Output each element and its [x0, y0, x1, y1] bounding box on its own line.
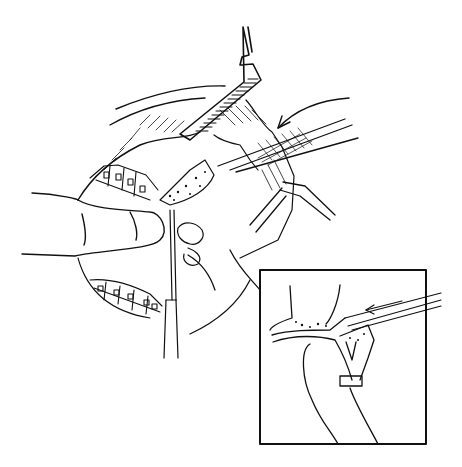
- bone-segment: [160, 160, 214, 205]
- orthodontic-brackets-upper: [90, 165, 158, 200]
- curved-arrow: [278, 98, 349, 128]
- tooth: [178, 223, 203, 265]
- vertical-probe: [164, 210, 178, 358]
- inset-finger: [303, 344, 378, 444]
- elevator-instrument: [218, 119, 358, 172]
- illustration-canvas: [0, 0, 462, 467]
- upper-lip: [78, 86, 225, 200]
- medical-illustration: Line illustration of intraoral surgical …: [0, 0, 462, 467]
- upper-retractor: [180, 27, 261, 140]
- operator-finger: [22, 193, 164, 256]
- inset-bone-section: [270, 285, 374, 380]
- orthodontic-brackets-lower: [78, 258, 162, 318]
